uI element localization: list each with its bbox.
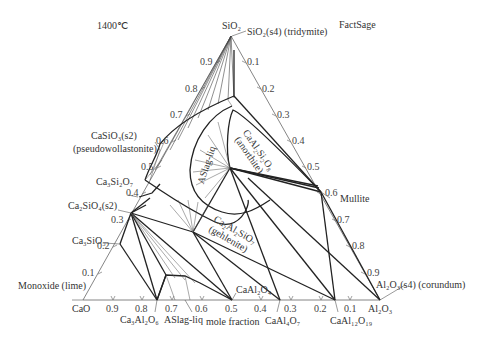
left-tick: 0.8 <box>185 84 198 94</box>
software-label: FactSage <box>339 20 376 30</box>
left-tick: 0.1 <box>82 268 95 278</box>
temperature-label: 1400℃ <box>97 21 128 31</box>
phase-calcium-dialuminate: CaAl₄O₇ <box>265 316 300 326</box>
right-tick: 0.5 <box>307 162 320 172</box>
right-tick: 0.1 <box>247 57 260 67</box>
right-tick: 0.4 <box>292 136 305 146</box>
vertex-al2o3: Al₂O₃ <box>368 304 392 314</box>
phase-pseudowollastonite-sub: (pseudowollastonite) <box>73 144 157 154</box>
leader-lines <box>72 31 405 312</box>
phase-boundaries <box>120 50 380 300</box>
right-tick: 0.2 <box>262 84 275 94</box>
phase-tridymite: SiO₂(s4) (tridymite) <box>247 27 327 37</box>
vertex-sio2: SiO₂ <box>222 21 241 31</box>
ternary-phase-diagram: 1400℃ FactSage SiO₂ CaO Al₂O₃ 0.9 0.8 0.… <box>0 0 480 345</box>
bottom-tick: 0.6 <box>195 304 208 314</box>
tie-lines <box>131 100 232 300</box>
left-tick: 0.4 <box>126 188 139 198</box>
phase-corundum: Al₂O₃(s4) (corundum) <box>376 280 465 290</box>
left-tick: 0.6 <box>156 136 169 146</box>
phase-hibonite: CaAl₁₂O₁₉ <box>330 316 372 326</box>
right-tick: 0.8 <box>352 241 365 251</box>
bottom-tick: 0.3 <box>284 304 297 314</box>
left-tick: 0.7 <box>170 110 183 120</box>
bottom-tick: 0.4 <box>254 304 267 314</box>
left-tick: 0.5 <box>141 162 154 172</box>
bottom-tick: 0.8 <box>135 304 148 314</box>
right-tick: 0.6 <box>325 188 338 198</box>
vertex-cao: CaO <box>72 304 90 314</box>
bottom-tick: 0.7 <box>165 304 178 314</box>
phase-tricalcium-silicate: Ca₃SiO₅ <box>72 236 106 246</box>
phase-rankinite: Ca₃Si₂O₇ <box>96 177 133 187</box>
right-tick: 0.7 <box>337 215 350 225</box>
bottom-tick: 0.9 <box>106 304 119 314</box>
axis-label: mole fraction <box>206 317 260 327</box>
left-tick: 0.9 <box>200 57 213 67</box>
left-tick: 0.3 <box>111 215 124 225</box>
right-tick: 0.3 <box>277 110 290 120</box>
phase-tricalcium-aluminate: Ca₃Al₂O₆ <box>120 315 159 325</box>
bottom-tick: 0.1 <box>344 304 357 314</box>
phase-mullite: Mullite <box>340 194 369 204</box>
phase-aslag-liq-bottom: ASlag-liq <box>164 315 203 325</box>
right-tick: 0.9 <box>367 268 380 278</box>
phase-calcium-aluminate: CaAl₂O₄ <box>236 285 271 295</box>
phase-dicalcium-silicate: Ca₂SiO₄(s2) <box>68 201 117 211</box>
phase-pseudowollastonite: CaSiO₃(s2) <box>91 131 137 141</box>
bottom-tick: 0.2 <box>314 304 327 314</box>
bottom-tick: 0.5 <box>225 304 238 314</box>
phase-lime: Monoxide (lime) <box>18 281 86 291</box>
